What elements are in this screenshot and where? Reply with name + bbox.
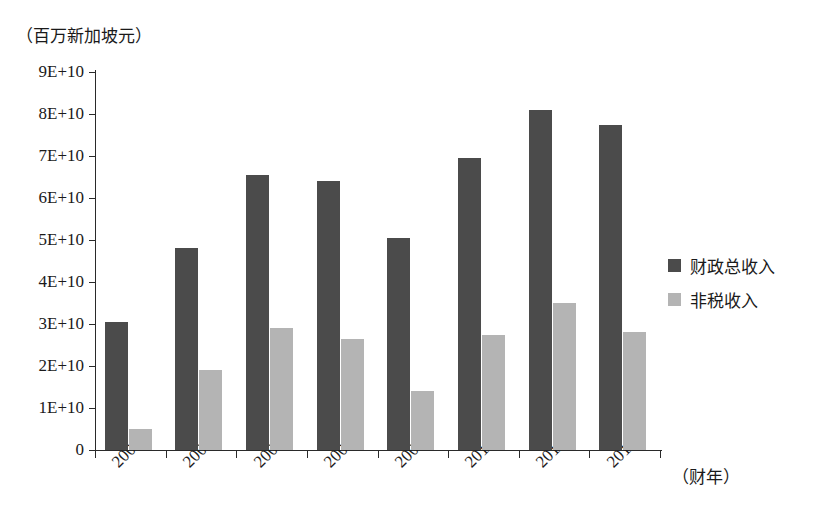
bar: [270, 328, 293, 450]
plot-area: [95, 72, 660, 450]
legend-label: 非税收入: [690, 287, 758, 312]
bar: [411, 391, 434, 450]
legend-item[interactable]: 财政总收入: [668, 248, 775, 282]
x-tick-mark: [378, 451, 379, 458]
y-tick-label: 2E+10: [0, 355, 84, 376]
bar: [623, 332, 646, 450]
x-tick-mark: [307, 451, 308, 458]
x-tick-mark: [448, 451, 449, 458]
y-tick-label: 3E+10: [0, 313, 84, 334]
bar: [553, 303, 576, 450]
x-axis-line: [95, 450, 662, 451]
y-tick-label: 7E+10: [0, 145, 84, 166]
legend-item[interactable]: 非税收入: [668, 282, 775, 316]
y-tick-label: 8E+10: [0, 103, 84, 124]
bar: [175, 248, 198, 450]
y-tick-label: 9E+10: [0, 61, 84, 82]
legend-swatch-icon: [668, 259, 681, 272]
bar: [599, 125, 622, 451]
x-tick-mark: [589, 451, 590, 458]
bar: [529, 110, 552, 450]
bar: [199, 370, 222, 450]
bar: [105, 322, 128, 450]
x-tick-mark: [519, 451, 520, 458]
x-tick-mark: [166, 451, 167, 458]
x-tick-mark: [95, 451, 96, 458]
chart-legend: 财政总收入非税收入: [668, 248, 775, 316]
bar: [387, 238, 410, 450]
bar: [482, 335, 505, 451]
y-tick-label: 6E+10: [0, 187, 84, 208]
y-tick-label: 4E+10: [0, 271, 84, 292]
y-tick-label: 1E+10: [0, 397, 84, 418]
x-tick-mark: [236, 451, 237, 458]
legend-label: 财政总收入: [690, 253, 775, 278]
y-tick-label: 0: [0, 439, 84, 460]
bar: [317, 181, 340, 450]
y-tick-label: 5E+10: [0, 229, 84, 250]
x-tick-mark: [660, 451, 661, 458]
bar: [341, 339, 364, 450]
legend-swatch-icon: [668, 293, 681, 306]
bar: [129, 429, 152, 450]
y-axis-unit-label: （百万新加坡元）: [16, 22, 152, 47]
x-axis-unit-label: （财年）: [672, 463, 740, 488]
bar: [246, 175, 269, 450]
bar-chart-figure: （百万新加坡元） 01E+102E+103E+104E+105E+106E+10…: [0, 0, 825, 528]
bar: [458, 158, 481, 450]
